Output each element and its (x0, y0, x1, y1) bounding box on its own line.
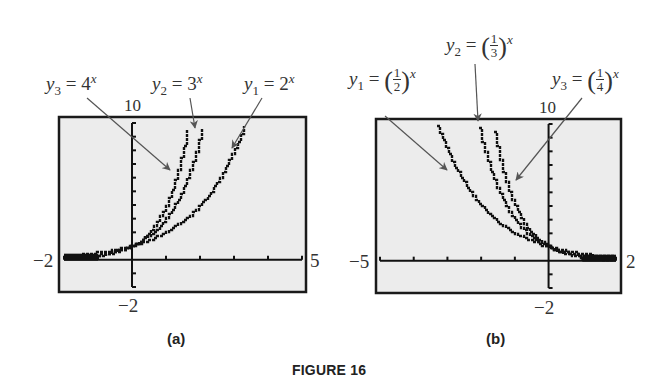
screen-frame (59, 117, 306, 292)
overlap-band (582, 255, 616, 262)
panel-b-xmax: 2 (626, 252, 636, 271)
label-y2-3x: y2 = 3x (152, 72, 202, 97)
figure-title: FIGURE 16 (292, 362, 366, 378)
panel-a-screen (59, 117, 306, 292)
callout-arrow (475, 64, 478, 121)
panel-b-screen (376, 119, 621, 293)
label-y2-third-x: y2 = (13)x (446, 32, 513, 60)
panel-a-xmax: 5 (310, 251, 320, 270)
figure: y3 = 4x y2 = 3x y1 = 2x 10 −2 5 −2 (a) y… (0, 0, 664, 391)
panel-a-caption: (a) (167, 330, 185, 347)
overlap-band (64, 254, 98, 261)
panel-a-ymin: −2 (118, 296, 138, 315)
panel-b-ymax: 10 (539, 99, 556, 116)
panel-b-ymin: −2 (534, 298, 554, 317)
figure-graphics (0, 0, 664, 391)
label-y1-half-x: y1 = (12)x (349, 66, 416, 94)
panel-b-caption: (b) (486, 330, 505, 347)
panel-a-xmin: −2 (33, 251, 53, 270)
label-y3-quarter-x: y3 = (14)x (552, 66, 619, 94)
panel-a-ymax: 10 (124, 97, 141, 114)
panel-b-xmin: −5 (349, 252, 369, 271)
label-y1-2x: y1 = 2x (244, 72, 294, 97)
label-y3-4x: y3 = 4x (46, 72, 96, 97)
